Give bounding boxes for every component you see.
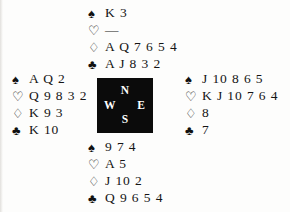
hand-north: ♠ K 3 ♡ — ♢ A Q 7 6 5 4 ♣ A J 8 3 2: [88, 6, 178, 74]
club-icon: ♣: [88, 192, 101, 205]
hand-west-spades-row: ♠ A Q 2: [12, 72, 87, 89]
spade-icon: ♠: [185, 73, 198, 86]
hand-east-hearts: K J 10 7 6 4: [198, 89, 278, 103]
hand-east-spades: J 10 8 6 5: [198, 72, 264, 86]
compass-label-north: N: [97, 85, 153, 97]
club-icon: ♣: [88, 58, 101, 71]
hand-north-clubs: A J 8 3 2: [101, 57, 161, 71]
diamond-icon: ♢: [88, 41, 101, 54]
hand-north-spades-row: ♠ K 3: [88, 6, 178, 23]
spade-icon: ♠: [88, 7, 101, 20]
diamond-icon: ♢: [185, 107, 198, 120]
spade-icon: ♠: [12, 73, 25, 86]
page-scan-edge: [0, 0, 3, 212]
hand-south-hearts-row: ♡ A 5: [88, 157, 163, 174]
diamond-icon: ♢: [88, 175, 101, 188]
hand-north-hearts-row: ♡ —: [88, 23, 178, 40]
hand-west-hearts-row: ♡ Q 9 8 3 2: [12, 89, 87, 106]
hand-east-diamonds: 8: [198, 106, 210, 120]
hand-south-clubs: Q 9 6 5 4: [101, 191, 163, 205]
hand-east-spades-row: ♠ J 10 8 6 5: [185, 72, 278, 89]
hand-north-diamonds: A Q 7 6 5 4: [101, 40, 178, 54]
club-icon: ♣: [12, 124, 25, 137]
hand-south-diamonds: J 10 2: [101, 174, 143, 188]
hand-east: ♠ J 10 8 6 5 ♡ K J 10 7 6 4 ♢ 8 ♣ 7: [185, 72, 278, 140]
bridge-deal-diagram: ♠ K 3 ♡ — ♢ A Q 7 6 5 4 ♣ A J 8 3 2 ♠ A …: [0, 0, 290, 212]
hand-west: ♠ A Q 2 ♡ Q 9 8 3 2 ♢ K 9 3 ♣ K 10: [12, 72, 87, 140]
heart-icon: ♡: [88, 24, 101, 37]
hand-south-spades-row: ♠ 9 7 4: [88, 140, 163, 157]
hand-west-clubs: K 10: [25, 123, 59, 137]
hand-east-diamonds-row: ♢ 8: [185, 106, 278, 123]
heart-icon: ♡: [12, 90, 25, 103]
hand-north-hearts: —: [101, 23, 119, 37]
hand-south-diamonds-row: ♢ J 10 2: [88, 174, 163, 191]
hand-north-diamonds-row: ♢ A Q 7 6 5 4: [88, 40, 178, 57]
heart-icon: ♡: [88, 158, 101, 171]
hand-south: ♠ 9 7 4 ♡ A 5 ♢ J 10 2 ♣ Q 9 6 5 4: [88, 140, 163, 208]
hand-west-hearts: Q 9 8 3 2: [25, 89, 87, 103]
hand-south-hearts: A 5: [101, 157, 127, 171]
diamond-icon: ♢: [12, 107, 25, 120]
club-icon: ♣: [185, 124, 198, 137]
compass-box: N W E S: [97, 78, 153, 133]
compass-label-south: S: [97, 114, 153, 126]
compass-label-west: W: [104, 100, 116, 112]
hand-west-clubs-row: ♣ K 10: [12, 123, 87, 140]
hand-west-spades: A Q 2: [25, 72, 66, 86]
hand-west-diamonds-row: ♢ K 9 3: [12, 106, 87, 123]
hand-west-diamonds: K 9 3: [25, 106, 64, 120]
hand-south-spades: 9 7 4: [101, 140, 137, 154]
compass-label-east: E: [137, 100, 145, 112]
hand-north-clubs-row: ♣ A J 8 3 2: [88, 57, 178, 74]
hand-north-spades: K 3: [101, 6, 128, 20]
heart-icon: ♡: [185, 90, 198, 103]
hand-east-clubs-row: ♣ 7: [185, 123, 278, 140]
hand-east-hearts-row: ♡ K J 10 7 6 4: [185, 89, 278, 106]
spade-icon: ♠: [88, 141, 101, 154]
hand-south-clubs-row: ♣ Q 9 6 5 4: [88, 191, 163, 208]
hand-east-clubs: 7: [198, 123, 210, 137]
